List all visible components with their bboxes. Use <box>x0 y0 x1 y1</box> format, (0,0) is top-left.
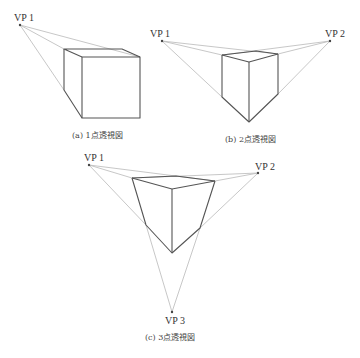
guide-lines-b <box>162 41 330 97</box>
vp1-label-a: VP 1 <box>14 12 34 23</box>
vp1-point-c <box>88 164 90 166</box>
vp2-point-c <box>257 172 259 174</box>
vp3-label-c: VP 3 <box>165 315 185 326</box>
vp3-point-c <box>171 311 173 313</box>
panel-c-three-point: VP 1 VP 2 VP 3 (c) 3点透視図 <box>84 152 275 342</box>
caption-c: (c) 3点透視図 <box>145 333 195 342</box>
caption-a: (a) 1点透視図 <box>72 131 123 140</box>
panel-a-one-point: VP 1 (a) 1点透視図 <box>14 12 140 140</box>
cube-b <box>222 51 278 122</box>
vp1-point-b <box>161 40 163 42</box>
panel-b-two-point: VP 1 VP 2 (b) 2点透視図 <box>150 28 345 144</box>
vp2-point-b <box>329 40 331 42</box>
vp1-point-a <box>19 24 21 26</box>
vp1-label-c: VP 1 <box>84 152 104 163</box>
guide-lines-c <box>89 165 258 312</box>
perspective-diagram: VP 1 (a) 1点透視図 VP 1 VP 2 (b) 2点透視図 <box>0 0 360 358</box>
vp2-label-b: VP 2 <box>325 28 345 39</box>
caption-b: (b) 2点透視図 <box>225 135 276 144</box>
vp1-label-b: VP 1 <box>150 28 170 39</box>
cube-a <box>64 49 140 118</box>
cube-c <box>132 176 215 253</box>
vp2-label-c: VP 2 <box>255 161 275 172</box>
